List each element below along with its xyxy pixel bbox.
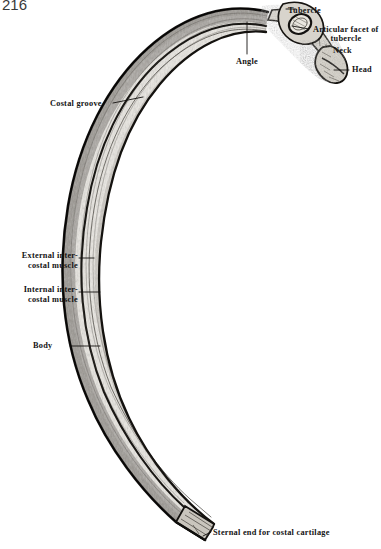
label-tubercle: Tubercle (288, 6, 321, 16)
label-external-intercostal-line2: costal muscle (28, 261, 78, 270)
label-internal-intercostal-muscle: Internal inter- costal muscle (8, 285, 78, 304)
label-costal-groove: Costal groove (50, 99, 102, 109)
label-sternal-end: Sternal end for costal cartilage (213, 528, 330, 538)
label-internal-intercostal-line1: Internal inter- (24, 285, 78, 294)
label-articular-facet-line2: tubercle (313, 34, 379, 43)
rib-body-shaft (50, 0, 280, 549)
label-articular-facet-line1: Articular facet of (313, 25, 379, 34)
rib-illustration (0, 0, 381, 549)
label-external-intercostal-muscle: External inter- costal muscle (8, 251, 78, 270)
label-neck: Neck (333, 46, 352, 56)
label-body: Body (33, 341, 52, 351)
label-articular-facet-of-tubercle: Articular facet of tubercle (313, 25, 379, 44)
label-angle: Angle (236, 57, 258, 67)
rib-bone (50, 0, 360, 549)
anatomical-plate: 216 (0, 0, 381, 549)
label-head: Head (352, 65, 372, 75)
label-internal-intercostal-line2: costal muscle (28, 295, 78, 304)
label-external-intercostal-line1: External inter- (22, 251, 78, 260)
